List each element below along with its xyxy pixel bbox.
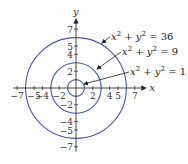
equation-labels: x2 + y2 = 36x2 + y2 = 9x2 + y2 = 1 [111, 30, 186, 77]
equation-label-r6: x2 + y2 = 36 [111, 30, 173, 42]
axes: xy [13, 6, 155, 152]
x-axis-label: x [149, 82, 155, 93]
x-tick-label: 7 [132, 91, 138, 101]
y-tick-label: −2 [60, 100, 73, 110]
y-tick-label: 7 [67, 25, 73, 35]
arrow-to-circle-r3 [97, 52, 121, 69]
x-tick-label: −4 [36, 91, 50, 101]
equation-label-r1: x2 + y2 = 1 [130, 65, 186, 77]
y-tick-label: −5 [60, 126, 74, 136]
arrow-to-circle-r6 [102, 37, 110, 43]
x-tick-label: 5 [115, 91, 121, 101]
y-tick-label: −7 [60, 142, 74, 152]
x-tick-label: 4 [107, 91, 113, 101]
y-axis-label: y [72, 6, 79, 17]
arrow-to-circle-r1 [84, 72, 129, 84]
x-tick-label: −7 [11, 91, 25, 101]
annotation-arrows [84, 37, 129, 84]
y-tick-label: 4 [67, 50, 73, 60]
y-tick-label: 2 [67, 67, 73, 77]
axis-ticks: −7−5−4−224577542−2−4−5−7 [11, 25, 138, 153]
equation-label-r3: x2 + y2 = 9 [122, 45, 178, 57]
concentric-circles-diagram: xy −7−5−4−224577542−2−4−5−7 x2 + y2 = 36… [0, 0, 188, 164]
x-tick-label: 2 [90, 91, 96, 101]
coordinate-plane: xy −7−5−4−224577542−2−4−5−7 x2 + y2 = 36… [0, 0, 188, 164]
